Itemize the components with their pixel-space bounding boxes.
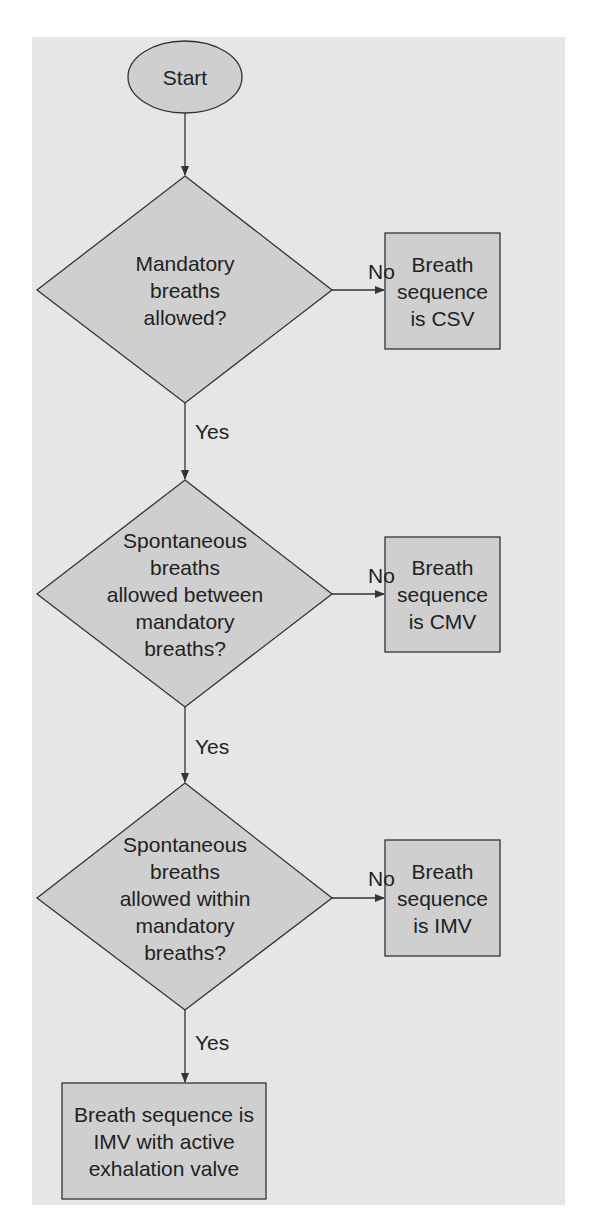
final-line: Breath sequence is — [74, 1101, 254, 1128]
cmv-label: Breath sequence is CMV — [385, 537, 500, 652]
start-label: Start — [128, 41, 242, 113]
final-line: IMV with active — [93, 1128, 234, 1155]
d3-label: Spontaneous breaths allowed within manda… — [60, 830, 310, 966]
d1-label: Mandatory breaths allowed? — [60, 236, 310, 344]
d2-line: Spontaneous — [123, 527, 247, 554]
d2-label: Spontaneous breaths allowed between mand… — [60, 526, 310, 662]
edge-label-no: No — [368, 867, 395, 891]
imv-label: Breath sequence is IMV — [385, 840, 500, 956]
csv-line: sequence — [397, 278, 488, 305]
csv-line: is CSV — [410, 305, 474, 332]
csv-line: Breath — [412, 251, 474, 278]
d2-line: allowed between — [107, 581, 263, 608]
final-line: exhalation valve — [89, 1155, 240, 1182]
d1-line: breaths — [150, 277, 220, 304]
edge-label-yes: Yes — [195, 735, 229, 759]
d3-line: mandatory — [135, 912, 234, 939]
edge-label-yes: Yes — [195, 420, 229, 444]
edge-label-yes: Yes — [195, 1031, 229, 1055]
imv-line: Breath — [412, 858, 474, 885]
edge-label-no: No — [368, 260, 395, 284]
d3-line: breaths — [150, 858, 220, 885]
cmv-line: Breath — [412, 554, 474, 581]
d1-line: Mandatory — [135, 250, 234, 277]
imv-line: is IMV — [413, 912, 471, 939]
d3-line: allowed within — [120, 885, 251, 912]
d3-line: Spontaneous — [123, 831, 247, 858]
start-text: Start — [163, 64, 207, 91]
d2-line: breaths? — [144, 635, 226, 662]
imv-line: sequence — [397, 885, 488, 912]
cmv-line: sequence — [397, 581, 488, 608]
edge-label-no: No — [368, 564, 395, 588]
d1-line: allowed? — [144, 304, 227, 331]
final-label: Breath sequence is IMV with active exhal… — [62, 1083, 266, 1199]
d2-line: mandatory — [135, 608, 234, 635]
d2-line: breaths — [150, 554, 220, 581]
cmv-line: is CMV — [409, 608, 477, 635]
d3-line: breaths? — [144, 939, 226, 966]
csv-label: Breath sequence is CSV — [385, 233, 500, 349]
